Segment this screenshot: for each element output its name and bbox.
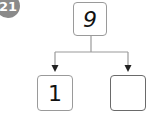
whole-value: 9 bbox=[83, 7, 97, 32]
arrow-down-icon bbox=[125, 65, 132, 72]
part-box-left: 1 bbox=[37, 75, 73, 111]
arrow-down-icon bbox=[52, 65, 59, 72]
whole-box: 9 bbox=[73, 2, 107, 36]
part-value-left: 1 bbox=[48, 81, 62, 106]
answer-box[interactable] bbox=[110, 75, 146, 111]
